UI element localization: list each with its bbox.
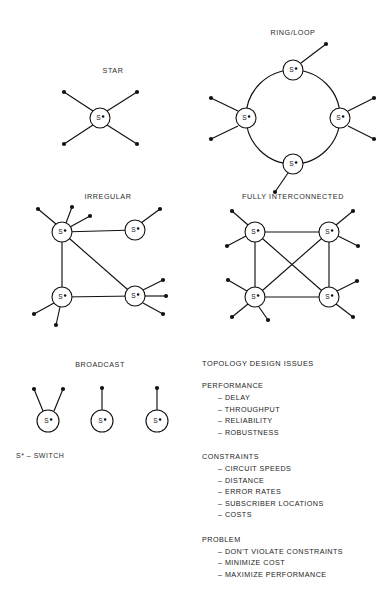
issues-title: TOPOLOGY DESIGN ISSUES — [202, 359, 314, 368]
endpoint-dot-3 — [351, 209, 355, 213]
issues-item: – ROBUSTNESS — [218, 428, 279, 437]
switch-asterisk-icon — [64, 229, 67, 232]
issues-item: – MINIMIZE COST — [218, 558, 285, 567]
switch-label: S — [98, 417, 103, 424]
endpoint-dot-7 — [266, 318, 270, 322]
switch-asterisk-icon — [159, 418, 162, 421]
endpoint-dot-5 — [372, 137, 376, 141]
diagram-title-fully-interconnected: FULLY INTERCONNECTED — [242, 192, 344, 201]
switch-node[interactable]: S — [245, 287, 265, 307]
endpoint-dot-1 — [62, 90, 66, 94]
switch-label: S — [131, 226, 136, 233]
endpoint-dot-3 — [62, 142, 66, 146]
switch-label: S — [289, 160, 294, 167]
switch-label: S — [44, 417, 49, 424]
switch-asterisk-icon — [342, 115, 345, 118]
switch-label: S — [153, 417, 158, 424]
endpoint-dot-4 — [372, 96, 376, 100]
switch-label: S — [325, 293, 330, 300]
switch-node[interactable]: S — [90, 108, 110, 128]
switch-asterisk-icon — [257, 294, 260, 297]
issues-item: – DISTANCE — [218, 476, 264, 485]
endpoint-dot-1 — [324, 42, 328, 46]
endpoint-dot-2 — [225, 244, 229, 248]
switch-label: S — [58, 228, 63, 235]
switch-asterisk-icon — [64, 294, 67, 297]
switch-label: S — [325, 228, 330, 235]
switch-asterisk-icon — [104, 418, 107, 421]
switch-label: S — [242, 114, 247, 121]
switch-asterisk-icon — [295, 161, 298, 164]
switch-node[interactable]: S — [330, 108, 350, 128]
switch-node[interactable]: S — [236, 108, 256, 128]
endpoint-dot-2 — [61, 387, 65, 391]
legend-layer: S* – SWITCH — [16, 452, 64, 459]
endpoint-dot-4 — [158, 207, 162, 211]
switch-node[interactable]: S — [125, 286, 145, 306]
switch-asterisk-icon — [137, 227, 140, 230]
switch-node[interactable]: S — [283, 154, 303, 174]
endpoint-dot-5 — [32, 312, 36, 316]
endpoint-dot-3 — [100, 386, 104, 390]
endpoint-dot-8 — [164, 294, 168, 298]
switch-label: S — [289, 66, 294, 73]
endpoint-dot-4 — [155, 386, 159, 390]
endpoint-dot-2 — [209, 96, 213, 100]
switch-node[interactable]: S — [52, 287, 72, 307]
endpoint-dot-1 — [230, 209, 234, 213]
endpoint-dot-6 — [54, 323, 58, 327]
endpoint-dot-7 — [161, 278, 165, 282]
switch-label: S — [251, 293, 256, 300]
switch-node[interactable]: S — [91, 410, 113, 432]
endpoint-dot-4 — [135, 142, 139, 146]
switch-node[interactable]: S — [245, 222, 265, 242]
switch-label: S — [131, 292, 136, 299]
issues-group-constraints: CONSTRAINTS — [202, 452, 259, 461]
issues-item: – SUBSCRIBER LOCATIONS — [218, 499, 324, 508]
switch-asterisk-icon — [137, 293, 140, 296]
issues-item: – RELIABILITY — [218, 416, 273, 425]
issues-item: – MAXIMIZE PERFORMANCE — [218, 570, 327, 579]
issues-item: – ERROR RATES — [218, 487, 281, 496]
endpoint-dot-3 — [88, 214, 92, 218]
switch-asterisk-icon — [50, 418, 53, 421]
issues-item: – DON'T VIOLATE CONSTRAINTS — [218, 547, 343, 556]
switch-label: S — [251, 228, 256, 235]
endpoint-dot-1 — [32, 387, 36, 391]
switch-asterisk-icon — [248, 115, 251, 118]
endpoint-dot-6 — [230, 315, 234, 319]
issues-group-performance: PERFORMANCE — [202, 381, 263, 390]
switch-asterisk-icon — [257, 229, 260, 232]
switch-node[interactable]: S — [125, 220, 145, 240]
endpoint-dot-3 — [209, 137, 213, 141]
switch-asterisk-icon — [102, 115, 105, 118]
switch-node[interactable]: S — [319, 222, 339, 242]
issues-item: – DELAY — [218, 393, 250, 402]
switch-asterisk-icon — [331, 294, 334, 297]
endpoint-dot-1 — [36, 207, 40, 211]
endpoint-dot-9 — [351, 315, 355, 319]
switch-node[interactable]: S — [52, 222, 72, 242]
switch-label: S — [58, 293, 63, 300]
switch-node[interactable]: S — [319, 287, 339, 307]
endpoint-dot-9 — [161, 312, 165, 316]
issues-group-problem: PROBLEM — [202, 535, 241, 544]
issues-item: – COSTS — [218, 510, 252, 519]
diagram-title-star: STAR — [103, 66, 124, 75]
endpoint-dot-2 — [135, 90, 139, 94]
switch-node[interactable]: S — [37, 410, 59, 432]
switch-asterisk-icon — [295, 67, 298, 70]
switch-node[interactable]: S — [146, 410, 168, 432]
switch-label: S — [96, 114, 101, 121]
endpoint-dot-2 — [70, 205, 74, 209]
endpoint-dot-5 — [226, 278, 230, 282]
diagram-title-broadcast: BROADCAST — [75, 360, 125, 369]
switch-node[interactable]: S — [283, 60, 303, 80]
issues-item: – THROUGHPUT — [218, 405, 280, 414]
endpoint-dot-4 — [356, 244, 360, 248]
issues-item: – CIRCUIT SPEEDS — [218, 464, 291, 473]
diagram-title-irregular: IRREGULAR — [85, 192, 132, 201]
switch-label: S — [336, 114, 341, 121]
diagram-title-ring-loop: RING/LOOP — [271, 28, 316, 37]
legend-switch-text: S* – SWITCH — [16, 452, 64, 459]
